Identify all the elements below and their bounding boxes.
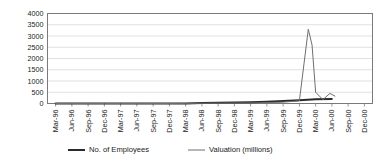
chart-container: 05001000150020002500300035004000 Mar-96J… <box>0 0 389 164</box>
x-axis-tick-label: Jun-99 <box>262 110 271 132</box>
y-axis-tick-label: 0 <box>40 99 44 108</box>
y-axis-tick-label: 2000 <box>28 54 44 63</box>
y-axis-tick-label: 4000 <box>28 9 44 18</box>
y-axis-tick-label: 1500 <box>28 65 44 74</box>
y-axis-tick-label: 2500 <box>28 43 44 52</box>
x-axis-tick-label: Sep-99 <box>279 110 288 133</box>
x-axis-tick-label: Jun-00 <box>327 110 336 132</box>
x-axis-tick-label: Dec-99 <box>295 109 304 132</box>
x-axis-tick-label: Jun-97 <box>132 110 141 132</box>
legend-label-valuation: Valuation (millions) <box>209 145 273 154</box>
x-axis-tick-label: Mar-97 <box>116 110 125 133</box>
x-axis-tick-label: Sep-97 <box>149 110 158 133</box>
x-axis-tick-label: Jun-96 <box>67 110 76 132</box>
y-axis-tick-label: 3000 <box>28 32 44 41</box>
x-axis-tick-label: Sep-98 <box>214 110 223 133</box>
x-axis-tick-label: Mar-98 <box>181 110 190 133</box>
x-axis-tick-label: Mar-99 <box>246 110 255 133</box>
x-axis-tick-label: Dec-96 <box>100 109 109 132</box>
y-axis-tick-label: 500 <box>32 88 44 97</box>
x-axis-tick-label: Dec-00 <box>360 109 369 132</box>
x-axis-tick-label: Mar-96 <box>51 110 60 133</box>
y-axis-tick-label: 1000 <box>28 77 44 86</box>
x-axis-tick-label: Mar-00 <box>311 110 320 133</box>
x-axis-tick-label: Sep-00 <box>344 110 353 133</box>
line-chart: 05001000150020002500300035004000 Mar-96J… <box>0 0 389 164</box>
x-axis-tick-label: Sep-96 <box>84 110 93 133</box>
legend-label-employees: No. of Employees <box>89 145 149 154</box>
x-axis-tick-label: Dec-98 <box>230 109 239 132</box>
y-axis-tick-label: 3500 <box>28 20 44 29</box>
x-axis-tick-label: Dec-97 <box>165 109 174 132</box>
x-axis-tick-label: Jun-98 <box>197 110 206 132</box>
